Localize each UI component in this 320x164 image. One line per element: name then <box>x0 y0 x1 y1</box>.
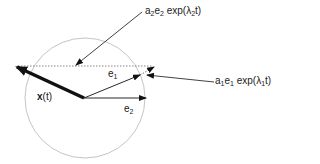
t-arg: (t) <box>43 91 52 102</box>
e1-sub: 1 <box>114 73 118 80</box>
e2-sub: 2 <box>130 108 134 115</box>
tail-text: t) <box>195 5 201 16</box>
tail-text: t) <box>265 75 271 86</box>
xt-label: x(t) <box>37 92 52 102</box>
a2-pointer <box>76 12 142 65</box>
exp-text: exp(λ <box>234 75 261 86</box>
e1-label: e1 <box>108 69 117 80</box>
e2-label: e2 <box>124 104 133 115</box>
exp-text: exp(λ <box>164 5 191 16</box>
a2e2-label: a2e2 exp(λ2t) <box>145 6 201 17</box>
a1e1-label: a1e1 exp(λ1t) <box>215 76 271 87</box>
e1-extension <box>140 67 154 75</box>
a1-pointer <box>147 75 214 82</box>
